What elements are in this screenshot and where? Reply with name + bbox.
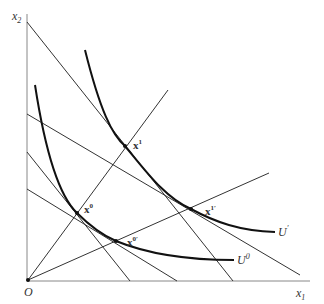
x1-prime-label: x1′: [205, 204, 216, 217]
origin-label: O: [24, 285, 33, 299]
point-x1-prime: [189, 207, 193, 211]
point-x0: [75, 211, 79, 215]
x-axis-label: x1: [295, 286, 305, 302]
x0-label: x0: [84, 202, 94, 215]
budget-line-c: [27, 152, 130, 281]
budget-line-b: [27, 114, 300, 275]
indifference-diagram: x2 x1 O U′ U0 x1 x0 x0′ x1′: [0, 0, 324, 304]
u-zero-label: U0: [237, 252, 250, 267]
u-prime-label: U′: [278, 224, 289, 239]
y-axis-label: x2: [11, 9, 21, 25]
budget-line-d: [27, 189, 177, 281]
point-x1: [123, 144, 127, 148]
indifference-curve-u-zero: [35, 85, 234, 260]
point-x0-prime: [114, 239, 118, 243]
x1-label: x1: [133, 138, 143, 151]
origin-dot: [26, 278, 30, 282]
